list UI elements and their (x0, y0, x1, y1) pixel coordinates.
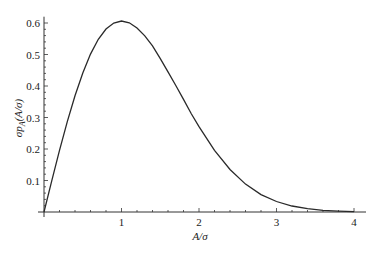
y-tick-label: 0.5 (26, 49, 40, 61)
y-axis-title-post: (A/σ) (12, 98, 25, 121)
chart-svg: 12340.10.20.30.40.50.6 A/σ σpA(A/σ) (0, 0, 372, 253)
y-axis-title-pre: σp (12, 126, 24, 137)
x-axis-title: A/σ (191, 230, 208, 242)
y-tick-label: 0.4 (26, 80, 40, 92)
x-tick-label: 4 (351, 216, 357, 228)
data-line (44, 21, 354, 212)
x-tick-label: 2 (196, 216, 202, 228)
axis-ticks (44, 23, 354, 212)
tick-labels: 12340.10.20.30.40.50.6 (26, 17, 357, 228)
x-tick-label: 1 (119, 216, 125, 228)
y-tick-label: 0.1 (26, 175, 40, 187)
y-tick-label: 0.3 (26, 112, 40, 124)
x-tick-label: 3 (274, 216, 280, 228)
y-tick-label: 0.6 (26, 17, 40, 29)
y-axis-title: σpA(A/σ) (12, 98, 27, 137)
axes (38, 17, 366, 217)
rayleigh-density-chart: 12340.10.20.30.40.50.6 A/σ σpA(A/σ) (0, 0, 372, 253)
y-tick-label: 0.2 (26, 143, 40, 155)
